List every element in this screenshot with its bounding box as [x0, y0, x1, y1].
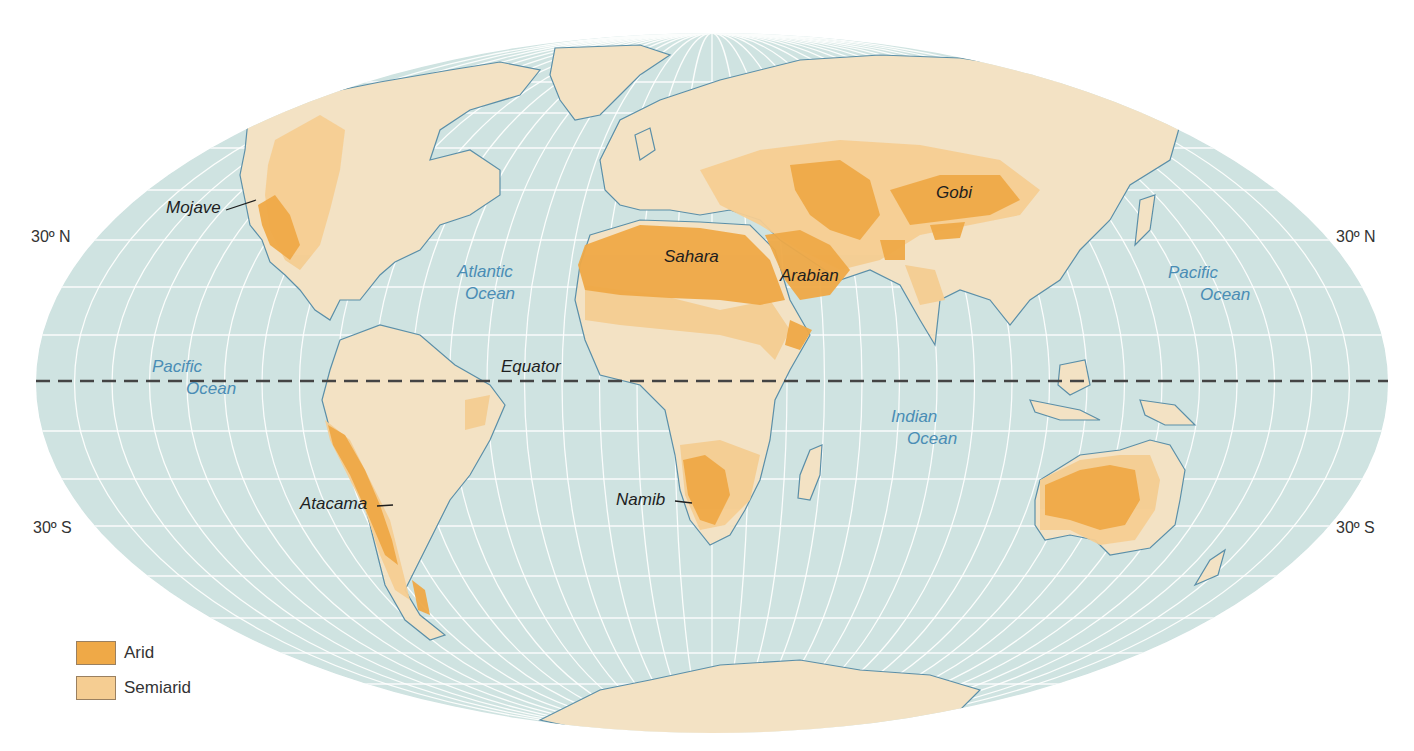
ocean-label-line2: Ocean	[140, 378, 250, 400]
ocean-label-pacific-west: Pacific Ocean	[140, 356, 250, 400]
ocean-label-atlantic: Atlantic Ocean	[440, 261, 530, 305]
desert-label-namib: Namib	[616, 490, 665, 510]
desert-label-arabian: Arabian	[780, 266, 839, 286]
desert-label-gobi: Gobi	[936, 183, 972, 203]
ocean-label-line1: Atlantic	[440, 261, 530, 283]
arid-taklamakan	[930, 222, 965, 240]
desert-label-mojave: Mojave	[166, 198, 221, 218]
arid-swatch	[76, 641, 116, 665]
ocean-label-line2: Ocean	[440, 283, 530, 305]
ocean-label-line1: Pacific	[140, 356, 250, 378]
ocean-label-line1: Indian	[885, 406, 995, 428]
ocean-label-line2: Ocean	[1164, 284, 1274, 306]
legend: Arid Semiarid	[76, 641, 191, 711]
legend-label: Arid	[124, 643, 154, 663]
ocean-label-pacific-east: Pacific Ocean	[1164, 262, 1274, 306]
lat-label-30n-left: 30º N	[31, 228, 71, 246]
legend-label: Semiarid	[124, 678, 191, 698]
ocean-label-indian: Indian Ocean	[885, 406, 995, 450]
semiarid-swatch	[76, 676, 116, 700]
desert-label-atacama: Atacama	[300, 494, 367, 514]
legend-item-semiarid: Semiarid	[76, 676, 191, 700]
legend-item-arid: Arid	[76, 641, 191, 665]
equator-label: Equator	[501, 357, 561, 377]
lat-label-30n-right: 30º N	[1336, 228, 1376, 246]
lat-label-30s-right: 30º S	[1336, 519, 1375, 537]
world-desert-map: 30º N 30º N 30º S 30º S Equator Atlantic…	[0, 0, 1414, 751]
ocean-label-line1: Pacific	[1164, 262, 1274, 284]
ocean-label-line2: Ocean	[885, 428, 995, 450]
lat-label-30s-left: 30º S	[33, 519, 72, 537]
desert-label-sahara: Sahara	[664, 247, 719, 267]
